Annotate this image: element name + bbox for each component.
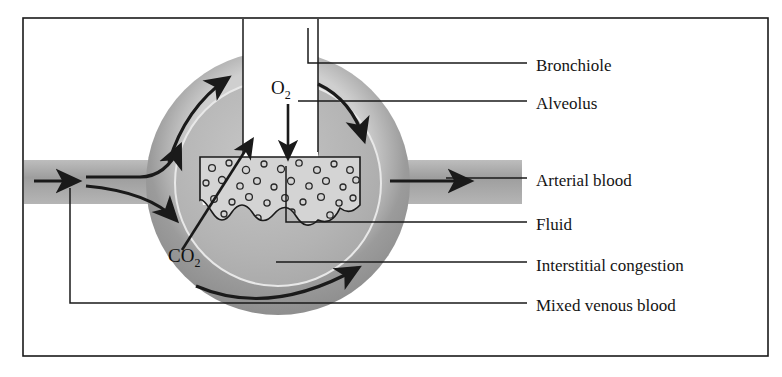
label-mixed-venous-blood: Mixed venous blood — [536, 297, 676, 314]
o2-label: O2 — [271, 78, 291, 105]
diagram-svg — [0, 0, 782, 377]
label-fluid: Fluid — [536, 216, 572, 233]
diagram-canvas: O2 CO2 Bronchiole Alveolus Arterial bloo… — [0, 0, 782, 377]
label-bronchiole: Bronchiole — [536, 57, 612, 74]
o2-label-text: O — [271, 77, 285, 98]
label-arterial-blood: Arterial blood — [536, 172, 632, 189]
o2-label-subscript: 2 — [285, 88, 291, 102]
co2-label: CO2 — [168, 246, 200, 273]
label-interstitial-congestion: Interstitial congestion — [536, 257, 684, 274]
leader-bronchiole — [308, 28, 527, 63]
label-alveolus: Alveolus — [536, 95, 597, 112]
co2-label-subscript: 2 — [194, 256, 200, 270]
co2-label-text: CO — [168, 245, 194, 266]
